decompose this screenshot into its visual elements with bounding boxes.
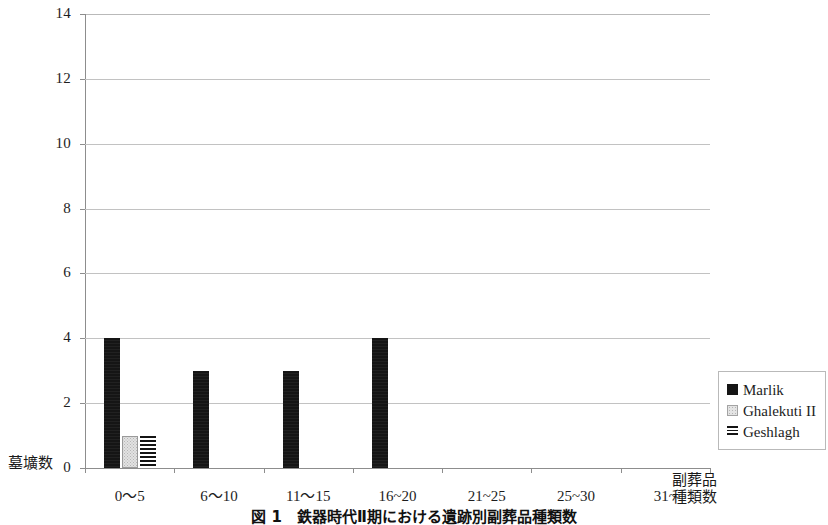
gridline (85, 338, 710, 339)
y-tick-mark (80, 403, 85, 404)
y-tick-label: 4 (25, 330, 71, 345)
x-tick-mark-origin (85, 468, 86, 473)
x-tick-label: 16~20 (353, 488, 442, 504)
gridline (85, 144, 710, 145)
striped-square-icon (727, 426, 738, 437)
y-tick-label: 8 (25, 201, 71, 216)
legend: MarlikGhalekuti IIGeshlagh (718, 371, 826, 450)
x-tick-mark (264, 468, 265, 473)
plot-top-border (85, 14, 710, 15)
legend-item-ghalekuti-ii[interactable]: Ghalekuti II (727, 400, 816, 421)
plot-area (85, 14, 710, 468)
figure-caption: 図 1 鉄器時代Ⅱ期における遺跡別副葬品種類数 (0, 508, 828, 525)
bar-ghalekuti-ii-0 (122, 436, 138, 468)
x-tick-mark (442, 468, 443, 473)
legend-item-geshlagh[interactable]: Geshlagh (727, 421, 816, 442)
y-tick-mark (80, 338, 85, 339)
gridline (85, 273, 710, 274)
y-tick-mark (80, 144, 85, 145)
y-axis-title: 墓壙数 (8, 455, 53, 471)
legend-item-label: Ghalekuti II (743, 403, 816, 419)
y-tick-mark (80, 209, 85, 210)
x-tick-label: 0〜5 (85, 488, 174, 504)
y-tick-label: 6 (25, 265, 71, 280)
solid-square-icon (727, 384, 738, 395)
bar-marlik-2 (283, 371, 299, 468)
y-tick-mark (80, 14, 85, 15)
y-tick-mark (80, 79, 85, 80)
x-tick-label: 11〜15 (264, 488, 353, 504)
bar-marlik-3 (372, 338, 388, 468)
y-tick-label: 14 (25, 6, 71, 21)
x-axis-title-line2: 種類数 (672, 489, 782, 506)
gridline (85, 403, 710, 404)
y-tick-label: 12 (25, 71, 71, 86)
x-tick-label: 6〜10 (174, 488, 263, 504)
y-tick-label: 10 (25, 136, 71, 151)
y-tick-label: 2 (25, 395, 71, 410)
legend-item-label: Geshlagh (743, 424, 800, 440)
y-tick-mark (80, 273, 85, 274)
x-tick-label: 25~30 (531, 488, 620, 504)
y-tick-mark (80, 468, 85, 469)
dotted-square-icon (727, 405, 738, 416)
x-tick-mark (531, 468, 532, 473)
x-tick-mark (621, 468, 622, 473)
bar-geshlagh-0 (140, 436, 156, 468)
gridline (85, 209, 710, 210)
bar-marlik-1 (193, 371, 209, 468)
legend-item-marlik[interactable]: Marlik (727, 379, 816, 400)
x-axis-title-line1: 副葬品 (672, 472, 782, 489)
x-tick-mark (174, 468, 175, 473)
x-tick-label: 21~25 (442, 488, 531, 504)
x-axis-title: 副葬品 種類数 (672, 472, 782, 506)
x-axis-line (85, 468, 710, 469)
x-tick-mark (353, 468, 354, 473)
bar-marlik-0 (104, 338, 120, 468)
legend-item-label: Marlik (743, 382, 784, 398)
y-axis-line (85, 14, 86, 468)
gridline (85, 79, 710, 80)
figure-container: 02468101214 0〜56〜1011〜1516~2021~2525~303… (0, 0, 828, 525)
